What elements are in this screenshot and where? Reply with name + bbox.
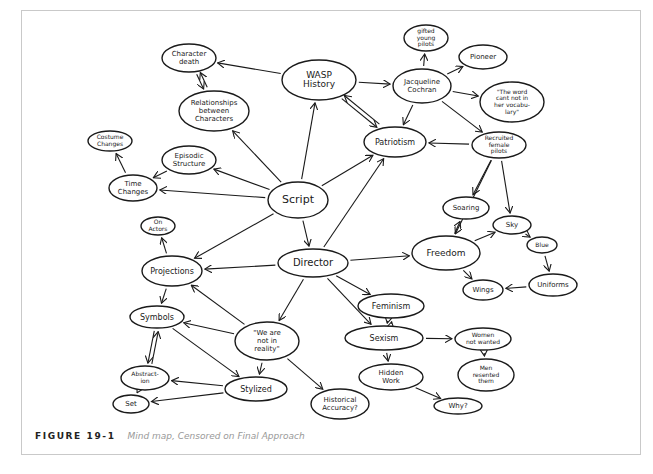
node-word-cant: "The wordcant not inher vocabu-lary" <box>480 82 544 122</box>
edge-hidden_work-to-why <box>416 388 441 399</box>
edge-script-to-episodic <box>214 169 270 189</box>
node-patriotism: Patriotism <box>364 127 426 157</box>
node-label: Freedom <box>426 248 465 258</box>
node-wings: Wings <box>463 280 503 300</box>
node-script: Script <box>268 182 328 218</box>
node-label: Pioneer <box>470 53 496 61</box>
mind-map-diagram: ScriptWASPHistoryDirectorCharacterdeathR… <box>0 0 653 474</box>
node-label: Characters <box>195 115 234 123</box>
edge-stylized-to-set <box>151 393 223 402</box>
edge-blue-to-uniforms <box>545 256 549 271</box>
node-label: Director <box>293 257 334 268</box>
nodes-layer: ScriptWASPHistoryDirectorCharacterdeathR… <box>88 25 577 419</box>
node-director: Director <box>278 249 348 277</box>
edge-sky-to-blue <box>526 234 531 237</box>
edge-sexism-to-hidden_work <box>387 353 388 361</box>
node-uniforms: Uniforms <box>529 274 577 296</box>
edge-wasp-to-character_death <box>218 63 281 74</box>
edge-director-to-freedom <box>350 256 409 260</box>
node-wasp: WASPHistory <box>282 60 356 100</box>
edge-jacqueline-to-recruited <box>442 101 482 132</box>
node-set: Set <box>113 395 149 413</box>
edge-jacqueline-to-patriotism <box>403 105 412 125</box>
edge-projections-to-on_actors <box>162 238 167 254</box>
node-men-resented: Menresentedthem <box>458 359 514 391</box>
node-label: WASP <box>306 70 332 80</box>
node-blue: Blue <box>527 237 557 253</box>
caption-text: Mind map, Censored on Final Approach <box>128 431 305 441</box>
node-label: not wanted <box>466 338 500 345</box>
edge-recruited-to-soaring <box>473 160 491 194</box>
node-time: TimeChanges <box>109 175 157 201</box>
edge-uniforms-to-wings <box>506 287 527 288</box>
edge-not_reality-to-symbols <box>184 323 234 334</box>
node-label: Cochran <box>407 86 436 94</box>
node-label: Soaring <box>453 204 480 212</box>
node-label: Patriotism <box>375 138 415 147</box>
node-why: Why? <box>434 398 482 414</box>
figure-caption: FIGURE 19-1 Mind map, Censored on Final … <box>35 431 305 441</box>
edge-script-to-patriotism <box>322 155 373 186</box>
edge-recruited-to-sky <box>502 161 510 213</box>
edge-not_reality-to-stylized <box>259 363 262 374</box>
node-label: Work <box>382 377 401 385</box>
node-label: History <box>303 79 336 89</box>
edge-symbols-to-stylized <box>173 328 239 376</box>
edge-freedom-to-sky <box>475 232 495 241</box>
node-label: Script <box>282 193 315 206</box>
edge-wasp-to-patriotism <box>342 99 377 128</box>
node-on-actors: OnActors <box>141 217 175 235</box>
node-stylized: Stylized <box>225 377 287 401</box>
node-label: reality" <box>254 345 279 353</box>
node-label: death <box>179 58 199 66</box>
node-label: Changes <box>118 188 149 196</box>
node-relationships: RelationshipsbetweenCharacters <box>179 91 249 131</box>
caption-label: FIGURE 19-1 <box>35 431 116 441</box>
edge-time-to-costume <box>116 153 125 172</box>
node-women-not-wanted: Womennot wanted <box>455 328 511 350</box>
node-label: Blue <box>535 241 549 248</box>
node-label: them <box>478 377 494 384</box>
edge-director-to-feminism <box>336 276 370 295</box>
node-gifted: giftedyoungpilots <box>404 25 448 51</box>
node-label: Projections <box>150 267 194 276</box>
node-label: Sexism <box>370 334 399 343</box>
edge-director-to-patriotism <box>324 159 384 247</box>
edge-patriotism-to-wasp <box>344 95 379 124</box>
edge-script-to-wasp <box>302 103 315 179</box>
node-label: Symbols <box>140 313 174 322</box>
node-label: pilots <box>491 147 507 155</box>
node-hidden-work: HiddenWork <box>359 364 423 390</box>
edge-not_reality-to-projections <box>191 285 244 324</box>
node-abstraction: Abstract-ion <box>121 366 169 390</box>
node-label: Uniforms <box>537 281 569 289</box>
edge-jacqueline-to-gifted <box>424 54 425 66</box>
edge-jacqueline-to-pioneer <box>447 67 463 74</box>
edge-freedom-to-soaring <box>455 222 460 234</box>
node-episodic: EpisodicStructure <box>162 146 216 174</box>
edge-projections-to-symbols <box>161 289 166 304</box>
node-label: Structure <box>173 160 206 168</box>
edge-stylized-to-abstraction <box>172 381 223 386</box>
node-label: Stylized <box>240 385 272 394</box>
node-character-death: Characterdeath <box>162 44 216 72</box>
node-label: pilots <box>418 40 434 48</box>
edge-script-to-projections <box>195 214 274 259</box>
edge-director-to-not_reality <box>279 279 303 320</box>
node-sky: Sky <box>493 216 531 234</box>
edge-script-to-time <box>160 190 265 198</box>
node-label: Wings <box>472 286 494 294</box>
edge-jacqueline-to-word_cant <box>453 91 479 96</box>
edge-episodic-to-time <box>153 171 167 178</box>
node-label: Accuracy? <box>322 404 358 412</box>
edge-recruited-to-patriotism <box>429 143 469 144</box>
node-freedom: Freedom <box>412 236 480 270</box>
edge-freedom-to-wings <box>463 270 472 279</box>
node-label: Feminism <box>372 302 411 311</box>
node-label: Actors <box>149 225 168 232</box>
node-label: ion <box>140 377 149 384</box>
node-label: Changes <box>97 140 123 148</box>
edge-script-to-director <box>303 221 309 246</box>
node-symbols: Symbols <box>130 306 184 328</box>
edge-wasp-to-jacqueline <box>359 82 390 84</box>
